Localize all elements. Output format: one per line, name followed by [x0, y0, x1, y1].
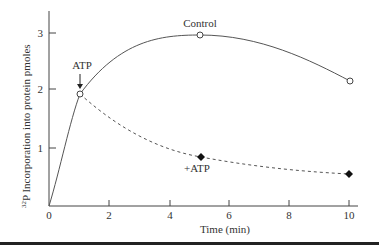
xtick-label: 8: [286, 209, 292, 221]
atp-marker: [197, 153, 205, 161]
ytick-label: 3: [38, 27, 44, 39]
annotation-atp: ATP: [72, 59, 92, 71]
control-marker: [347, 78, 353, 84]
control-marker: [197, 32, 203, 38]
xtick-label: 4: [167, 209, 173, 221]
control-marker: [77, 91, 83, 97]
arrow-down-icon: [77, 74, 83, 89]
y-ticks: [49, 33, 56, 148]
control-line: [49, 35, 350, 206]
xtick-label: 10: [344, 209, 356, 221]
x-axis-label: Time (min): [200, 223, 250, 236]
annotation-control: Control: [183, 17, 217, 29]
ytick-label: 1: [38, 142, 44, 154]
atp-marker: [345, 170, 353, 178]
chart: 1 2 3 0 2 4 6 8 10 Time (min) 32P Incorp…: [0, 0, 379, 245]
ytick-label: 2: [38, 83, 44, 95]
xtick-label: 0: [46, 209, 52, 221]
x-ticks: [109, 200, 349, 206]
annotation-plus-atp: +ATP: [184, 162, 210, 174]
xtick-label: 2: [106, 209, 112, 221]
atp-line: [80, 94, 349, 174]
xtick-label: 6: [226, 209, 232, 221]
y-axis-label: 32P Incorporation into protein pmoles: [20, 44, 32, 208]
